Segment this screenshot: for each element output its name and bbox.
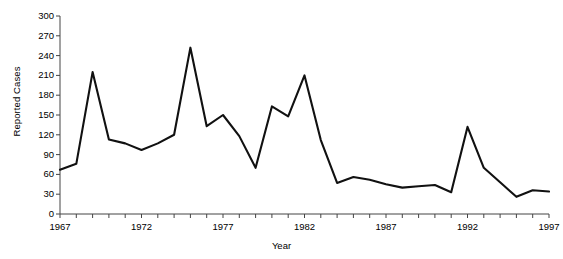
axis-lines (60, 16, 549, 214)
x-axis-ticks (60, 214, 549, 218)
plot-area (0, 0, 563, 259)
line-chart: Reported Cases Year 03060901201501802102… (0, 0, 563, 259)
data-line-reported-cases (60, 48, 549, 197)
y-axis-ticks (56, 16, 60, 214)
